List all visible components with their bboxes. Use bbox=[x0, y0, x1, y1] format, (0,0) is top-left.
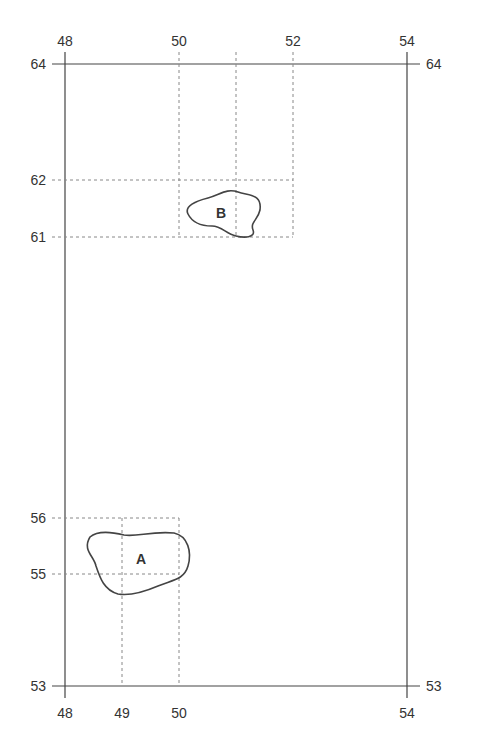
grid-diagram: B A 48 50 52 54 48 49 50 54 64 62 61 56 … bbox=[0, 0, 478, 756]
bottom-x-label-48: 48 bbox=[57, 705, 73, 721]
left-y-label-64: 64 bbox=[30, 56, 46, 72]
top-x-label-48: 48 bbox=[57, 33, 73, 49]
region-b: B bbox=[187, 191, 260, 237]
right-y-label-64: 64 bbox=[426, 56, 442, 72]
left-y-label-62: 62 bbox=[30, 172, 46, 188]
region-a: A bbox=[87, 532, 189, 594]
left-y-label-53: 53 bbox=[30, 678, 46, 694]
region-a-label: A bbox=[136, 551, 146, 567]
left-y-label-56: 56 bbox=[30, 510, 46, 526]
bottom-x-label-54: 54 bbox=[399, 705, 415, 721]
top-x-label-52: 52 bbox=[285, 33, 301, 49]
top-x-label-50: 50 bbox=[171, 33, 187, 49]
left-y-label-55: 55 bbox=[30, 566, 46, 582]
bottom-x-label-50: 50 bbox=[171, 705, 187, 721]
right-y-label-53: 53 bbox=[426, 678, 442, 694]
bottom-x-label-49: 49 bbox=[114, 705, 130, 721]
dashed-guides bbox=[52, 52, 293, 686]
left-y-label-61: 61 bbox=[30, 229, 46, 245]
region-b-label: B bbox=[216, 205, 226, 221]
top-x-label-54: 54 bbox=[399, 33, 415, 49]
